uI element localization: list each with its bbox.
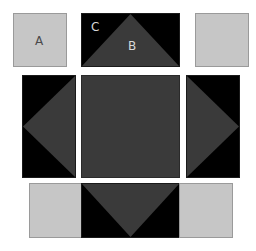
tile-bottom-left <box>29 183 82 238</box>
tile-top-left: A <box>13 13 67 67</box>
triangle-down-shape <box>82 184 179 237</box>
label-a: A <box>35 35 43 47</box>
tile-center <box>81 75 180 178</box>
label-b: B <box>128 40 136 52</box>
tile-middle-left <box>22 75 76 178</box>
tile-top-right <box>195 13 249 67</box>
triangle-right-shape <box>187 76 239 177</box>
tile-top-center: C B <box>81 13 180 67</box>
tile-bottom-center <box>81 183 180 238</box>
tile-bottom-right <box>179 183 233 238</box>
triangle-left-shape <box>23 76 75 177</box>
label-c: C <box>91 21 99 33</box>
tile-middle-right <box>186 75 240 178</box>
